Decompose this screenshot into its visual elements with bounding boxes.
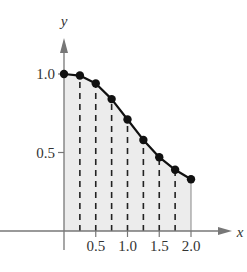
data-point — [123, 115, 131, 123]
x-tick-label: 1.0 — [118, 238, 137, 254]
chart: 0.51.01.52.00.51.0xy — [0, 0, 247, 272]
data-point — [155, 153, 163, 161]
y-axis-arrow-icon — [60, 38, 68, 53]
x-tick-label: 2.0 — [182, 238, 201, 254]
x-axis-arrow-icon — [218, 227, 232, 235]
data-point — [187, 175, 195, 183]
x-axis-label: x — [236, 224, 244, 240]
y-tick-label: 1.0 — [36, 66, 55, 82]
x-tick-label: 0.5 — [86, 238, 105, 254]
y-axis-label: y — [59, 13, 68, 29]
data-point — [171, 166, 179, 174]
data-point — [139, 136, 147, 144]
data-point — [76, 71, 84, 79]
data-point — [60, 70, 68, 78]
x-tick-label: 1.5 — [150, 238, 169, 254]
y-tick-label: 0.5 — [36, 145, 55, 161]
data-point — [92, 79, 100, 87]
data-point — [107, 95, 115, 103]
